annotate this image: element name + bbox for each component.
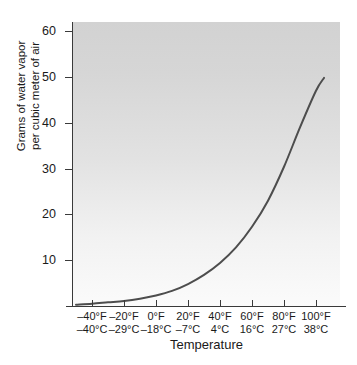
x-axis-tick	[92, 300, 93, 307]
x-axis-tick	[124, 300, 125, 307]
x-axis-tick-label: 100°F38°C	[286, 310, 346, 335]
y-axis-title: Grams of water vapor per cubic meter of …	[14, 6, 42, 186]
x-axis-tick	[316, 300, 317, 307]
humidity-capacity-chart: 102030405060 Grams of water vapor per cu…	[0, 0, 357, 365]
saturation-curve	[73, 22, 340, 306]
x-axis-tick-label-fahrenheit: 100°F	[286, 310, 346, 323]
y-axis-line	[72, 22, 73, 307]
x-axis-tick	[284, 300, 285, 307]
x-axis-tick	[252, 300, 253, 307]
saturation-curve-path	[76, 78, 324, 305]
x-axis-title: Temperature	[73, 337, 340, 352]
y-axis-tick	[65, 123, 73, 124]
x-axis-tick-label-celsius: 38°C	[286, 323, 346, 336]
x-axis-tick	[220, 300, 221, 307]
y-axis-title-line-1: Grams of water vapor	[14, 6, 28, 186]
y-axis-tick	[65, 260, 73, 261]
y-axis-tick-label: 20	[12, 208, 56, 220]
y-axis-tick-label: 10	[12, 254, 56, 266]
plot-area	[73, 22, 340, 306]
y-axis-tick	[65, 169, 73, 170]
y-axis-title-line-2: per cubic meter of air	[28, 6, 42, 186]
x-axis-tick	[156, 300, 157, 307]
y-axis-tick	[65, 77, 73, 78]
y-axis-tick	[65, 214, 73, 215]
x-axis-line	[66, 306, 346, 307]
x-axis-tick	[188, 300, 189, 307]
y-axis-tick	[65, 31, 73, 32]
